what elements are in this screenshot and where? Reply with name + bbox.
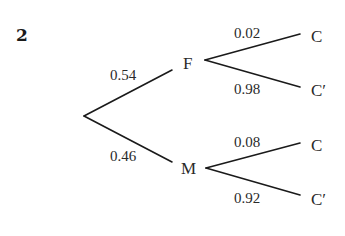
node-m: M: [181, 160, 196, 177]
outcome-m-cprime: C′: [311, 191, 326, 208]
prob-m: 0.46: [110, 149, 136, 164]
prob-m-c: 0.08: [234, 135, 260, 150]
node-f: F: [183, 55, 192, 72]
outcome-f-c: C: [311, 28, 322, 45]
prob-f-c: 0.02: [234, 26, 260, 41]
prob-f: 0.54: [110, 68, 136, 83]
prob-m-cprime: 0.92: [234, 191, 260, 206]
prob-f-cprime: 0.98: [234, 82, 260, 97]
outcome-m-c: C: [311, 137, 322, 154]
tree-branches: [0, 0, 345, 236]
tree-diagram: 2 0.54 0.46 F M 0.02 0.98 0.08 0.92 C C′…: [0, 0, 345, 236]
outcome-f-cprime: C′: [311, 82, 326, 99]
